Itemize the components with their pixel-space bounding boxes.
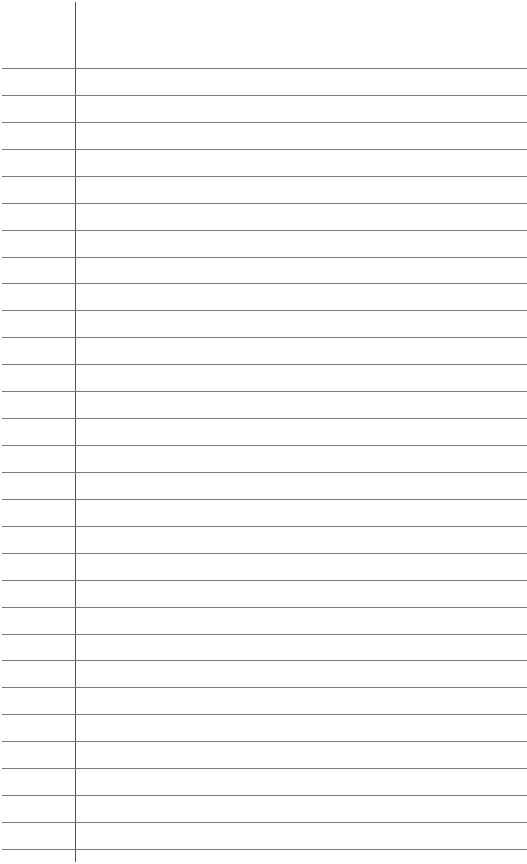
ruled-line — [2, 310, 527, 311]
ruled-line — [2, 364, 527, 365]
margin-line — [75, 2, 76, 862]
ruled-line — [2, 95, 527, 96]
ruled-line — [2, 849, 527, 850]
ruled-line — [2, 418, 527, 419]
ruled-line — [2, 526, 527, 527]
ruled-line — [2, 472, 527, 473]
ruled-line — [2, 634, 527, 635]
ruled-line — [2, 553, 527, 554]
ruled-line — [2, 660, 527, 661]
lined-paper-page — [0, 0, 527, 864]
ruled-line — [2, 499, 527, 500]
ruled-line — [2, 580, 527, 581]
ruled-line — [2, 257, 527, 258]
ruled-line — [2, 149, 527, 150]
ruled-line — [2, 283, 527, 284]
ruled-line — [2, 122, 527, 123]
ruled-line — [2, 714, 527, 715]
ruled-line — [2, 445, 527, 446]
ruled-line — [2, 795, 527, 796]
ruled-line — [2, 203, 527, 204]
ruled-line — [2, 822, 527, 823]
ruled-line — [2, 687, 527, 688]
ruled-line — [2, 230, 527, 231]
ruled-line — [2, 741, 527, 742]
ruled-line — [2, 391, 527, 392]
ruled-line — [2, 68, 527, 69]
ruled-line — [2, 607, 527, 608]
ruled-line — [2, 176, 527, 177]
ruled-line — [2, 337, 527, 338]
ruled-line — [2, 768, 527, 769]
